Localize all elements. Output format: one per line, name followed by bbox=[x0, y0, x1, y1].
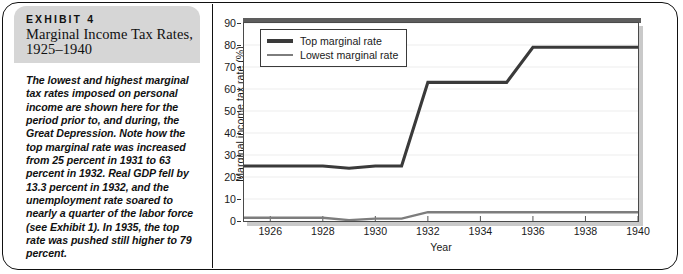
x-axis-tick-label: 1934 bbox=[460, 225, 500, 237]
x-axis-tick-label: 1930 bbox=[355, 225, 395, 237]
legend-item-label: Top marginal rate bbox=[300, 35, 382, 47]
y-axis-tick-mark bbox=[237, 221, 241, 222]
y-axis-tick-mark bbox=[237, 177, 241, 178]
y-axis-tick-label: 50 bbox=[216, 106, 236, 116]
x-axis-tick-label: 1936 bbox=[513, 225, 553, 237]
y-axis-tick-label: 0 bbox=[216, 216, 236, 226]
x-axis-tick-label: 1940 bbox=[618, 225, 658, 237]
x-axis-tick-label: 1926 bbox=[250, 225, 290, 237]
x-axis-title: Year bbox=[243, 241, 639, 253]
legend-swatch-icon bbox=[267, 39, 293, 42]
y-axis-tick-label: 10 bbox=[216, 194, 236, 204]
legend-item-label: Lowest marginal rate bbox=[300, 49, 398, 61]
y-axis-tick-label: 60 bbox=[216, 84, 236, 94]
y-axis-tick-label: 30 bbox=[216, 150, 236, 160]
y-axis-tick-label: 90 bbox=[216, 18, 236, 28]
chart-series-line bbox=[244, 212, 638, 220]
x-axis-tick-label: 1928 bbox=[303, 225, 343, 237]
y-axis-tick-mark bbox=[237, 23, 241, 24]
legend-item-top-marginal-rate: Top marginal rate bbox=[267, 34, 398, 48]
x-axis-tick-label: 1932 bbox=[408, 225, 448, 237]
y-axis-tick-mark bbox=[237, 155, 241, 156]
y-axis-tick-mark bbox=[237, 45, 241, 46]
legend-swatch-icon bbox=[267, 54, 293, 56]
exhibit-figure: EXHIBIT 4 Marginal Income Tax Rates, 192… bbox=[0, 0, 683, 274]
exhibit-left-panel: EXHIBIT 4 Marginal Income Tax Rates, 192… bbox=[4, 4, 209, 268]
exhibit-header-block: EXHIBIT 4 Marginal Income Tax Rates, 192… bbox=[14, 6, 200, 63]
legend-item-lowest-marginal-rate: Lowest marginal rate bbox=[267, 48, 398, 62]
chart-panel: Marginal income tax rate (%) 01020304050… bbox=[214, 4, 678, 270]
y-axis-tick-mark bbox=[237, 89, 241, 90]
exhibit-caption-text: The lowest and highest marginal tax rate… bbox=[26, 74, 194, 261]
exhibit-number-label: EXHIBIT 4 bbox=[26, 13, 200, 25]
y-axis-tick-label: 80 bbox=[216, 40, 236, 50]
x-axis-tick-label: 1938 bbox=[565, 225, 605, 237]
y-axis-tick-label: 40 bbox=[216, 128, 236, 138]
y-axis-tick-label: 20 bbox=[216, 172, 236, 182]
y-axis-tick-mark bbox=[237, 133, 241, 134]
y-axis-tick-label: 70 bbox=[216, 62, 236, 72]
panel-divider bbox=[212, 4, 213, 268]
page-title: Marginal Income Tax Rates, 1925–1940 bbox=[26, 27, 200, 58]
y-axis-tick-mark bbox=[237, 111, 241, 112]
y-axis-tick-labels: 0102030405060708090 bbox=[214, 4, 236, 270]
chart-legend: Top marginal rate Lowest marginal rate bbox=[260, 29, 407, 67]
y-axis-tick-mark bbox=[237, 199, 241, 200]
y-axis-tick-mark bbox=[237, 67, 241, 68]
